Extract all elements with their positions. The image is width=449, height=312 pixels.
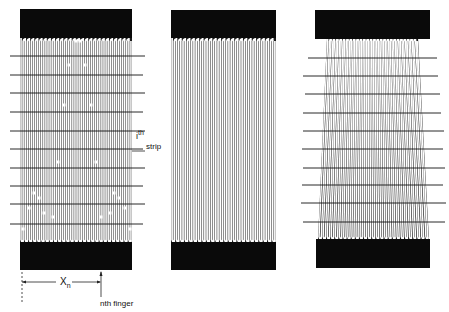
finger-turn (353, 39, 355, 41)
finger-turn (346, 39, 348, 41)
defect-dot (38, 197, 41, 200)
defect-dot (113, 192, 116, 195)
finger-turn (404, 39, 406, 41)
nth-finger-text: nth finger (100, 299, 133, 308)
finger-turn (350, 39, 352, 41)
finger-turn (363, 39, 365, 41)
defect-dot (84, 64, 87, 67)
finger-turn (383, 39, 385, 41)
finger-turn (340, 39, 342, 41)
finger-turn (377, 39, 379, 41)
xn-arrowhead-right (97, 281, 101, 284)
nth-finger-arrowhead (100, 271, 103, 276)
finger-turn (367, 39, 369, 41)
defect-dot (124, 207, 127, 210)
finger-turn (414, 39, 416, 41)
electrode-diagram (0, 0, 449, 312)
finger-turn (356, 39, 358, 41)
middle-electrode-panel (171, 10, 276, 270)
defect-dot (43, 212, 46, 215)
defect-dot (22, 228, 25, 231)
defect-dot (57, 161, 60, 164)
bottom-bus-bar (316, 239, 430, 268)
finger-region (20, 38, 132, 243)
defect-dot (79, 40, 82, 43)
strip-word: strip (146, 142, 161, 151)
top-bus-bar (171, 10, 276, 38)
top-bus-bar (315, 10, 430, 39)
defect-dot (90, 104, 93, 107)
defect-dot (75, 40, 78, 43)
defect-dot (28, 207, 31, 210)
finger-turn (380, 39, 382, 41)
finger-turn (373, 39, 375, 41)
strip-index-suffix: th (138, 129, 144, 136)
defect-dot (129, 228, 132, 231)
xn-sub: n (67, 282, 71, 289)
finger-turn (400, 39, 402, 41)
defect-dot (118, 197, 121, 200)
defect-dot (100, 216, 103, 219)
defect-dot (95, 161, 98, 164)
finger-turn (336, 39, 338, 41)
defect-dot (52, 216, 55, 219)
defect-dot (109, 212, 112, 215)
xn-var: X (60, 276, 67, 287)
right-electrode-panel (301, 10, 446, 268)
finger-turn (410, 39, 412, 41)
finger-turn (407, 39, 409, 41)
ith-strip-label: ith (136, 132, 144, 141)
xn-arrowhead-left (22, 281, 26, 284)
finger-turn (394, 39, 396, 41)
left-electrode-panel (10, 9, 145, 270)
finger-turn (387, 39, 389, 41)
strip-word-label: strip (146, 143, 161, 151)
bottom-bus-bar (20, 242, 132, 270)
finger-turn (360, 39, 362, 41)
defect-dot (68, 64, 71, 67)
finger-turn (397, 39, 399, 41)
defect-dot (63, 104, 66, 107)
defect-dot (33, 192, 36, 195)
finger-turn (370, 39, 372, 41)
top-bus-bar (20, 9, 132, 38)
finger-turn (333, 39, 335, 41)
bottom-bus-bar (171, 242, 276, 270)
nth-finger-label: nth finger (100, 300, 133, 308)
finger-turn (343, 39, 345, 41)
xn-label: Xn (60, 277, 71, 287)
finger-turn (390, 39, 392, 41)
finger-turn (330, 39, 332, 41)
